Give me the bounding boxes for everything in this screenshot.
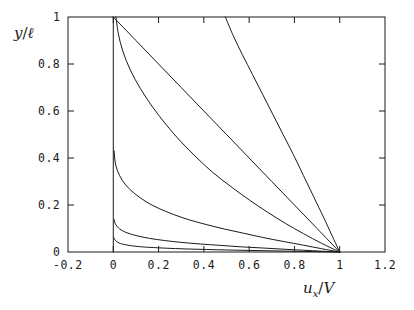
y-tick-label-0: 0 <box>53 245 60 259</box>
y-tick-label-4: 0.8 <box>38 57 60 71</box>
x-label-numerator: ux <box>303 279 318 297</box>
y-tick-label-1: 0.2 <box>38 198 60 212</box>
x-axis-label: ux/V <box>303 279 334 299</box>
x-tick-label-0: -0.2 <box>53 258 83 272</box>
x-tick-label-6: 1 <box>336 258 343 272</box>
y-tick-label-2: 0.4 <box>38 151 60 165</box>
x-tick-label-2: 0.2 <box>148 258 170 272</box>
x-tick-label-7: 1.2 <box>374 258 396 272</box>
y-tick-label-3: 0.6 <box>38 104 60 118</box>
x-tick-label-1: 0 <box>110 258 117 272</box>
y-tick-label-5: 1 <box>53 10 60 24</box>
x-tick-label-4: 0.6 <box>238 258 260 272</box>
y-axis-label: y/ℓ <box>14 24 34 42</box>
x-tick-label-5: 0.8 <box>283 258 305 272</box>
x-label-denominator: V <box>323 279 334 297</box>
velocity-profile-chart: -0.200.20.40.60.811.2 00.20.40.60.81 ux/… <box>0 0 414 310</box>
x-tick-label-3: 0.4 <box>193 258 215 272</box>
y-label-denominator: ℓ <box>28 24 34 42</box>
